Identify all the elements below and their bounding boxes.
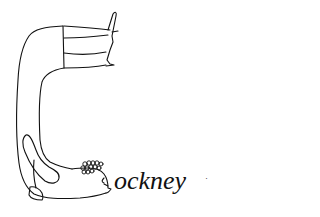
word-ockney: ockney (114, 168, 186, 194)
footnote-mark: · (205, 173, 208, 183)
